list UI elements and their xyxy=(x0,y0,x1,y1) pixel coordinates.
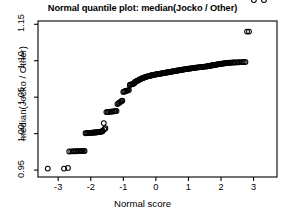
data-point xyxy=(101,121,106,126)
data-point xyxy=(45,166,50,171)
y-axis-ticks xyxy=(34,24,38,170)
x-axis-ticks xyxy=(58,177,253,181)
normal-quantile-plot-figure: Normal quantile plot: median(Jocko / Oth… xyxy=(0,0,285,216)
data-point-group xyxy=(45,0,266,171)
data-point xyxy=(262,0,267,2)
data-point xyxy=(251,0,256,2)
plot-area xyxy=(0,0,285,216)
